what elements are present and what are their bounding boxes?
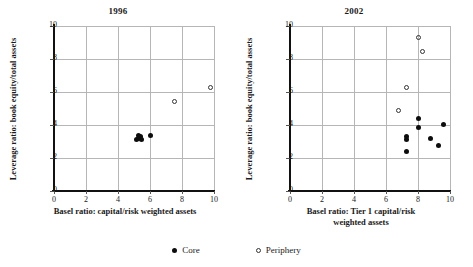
y-tick-label: 4	[45, 119, 57, 128]
x-tick	[182, 191, 183, 194]
x-axis-label-2002: Basel ratio: Tier 1 capital/riskweighted…	[256, 206, 466, 228]
x-tick-label: 2	[312, 195, 332, 204]
y-tick-label: 0	[45, 185, 57, 194]
x-tick-label: 10	[204, 195, 224, 204]
gridline-vertical	[322, 26, 323, 191]
gridline-vertical	[450, 26, 451, 191]
x-tick	[322, 191, 323, 194]
x-tick-label: 10	[440, 195, 460, 204]
filled-circle-icon	[172, 248, 177, 253]
gridline-horizontal	[290, 158, 450, 159]
x-tick-label: 8	[408, 195, 428, 204]
x-tick-label: 0	[280, 195, 300, 204]
plot-background	[290, 26, 450, 191]
gridline-vertical	[418, 26, 419, 191]
y-tick-label: 6	[45, 86, 57, 95]
x-axis-label-1996: Basel ratio: capital/risk weighted asset…	[20, 206, 230, 217]
gridline-horizontal	[54, 26, 214, 27]
plot-background	[54, 26, 214, 191]
gridline-horizontal	[290, 26, 450, 27]
y-tick-label: 2	[45, 152, 57, 161]
x-axis-spine	[288, 190, 451, 192]
y-axis-spine	[53, 24, 55, 192]
y-tick-label: 0	[281, 185, 293, 194]
y-tick-label: 8	[45, 53, 57, 62]
gridline-vertical	[354, 26, 355, 191]
y-tick-label: 2	[281, 152, 293, 161]
plot-area-2002: 02468100246810	[290, 26, 450, 191]
y-tick-label: 10	[281, 20, 293, 29]
y-axis-label-2002: Leverage ratio: book equity/total assets	[242, 26, 256, 191]
scatter-figure: 1996 Leverage ratio: book equity/total a…	[0, 0, 473, 267]
data-point-core	[404, 137, 409, 142]
x-tick	[118, 191, 119, 194]
x-tick	[450, 191, 451, 194]
gridline-horizontal	[54, 158, 214, 159]
gridline-horizontal	[54, 125, 214, 126]
x-tick-label: 0	[44, 195, 64, 204]
plot-area-1996: 02468100246810	[54, 26, 214, 191]
x-tick-label: 4	[108, 195, 128, 204]
data-point-periphery	[208, 85, 213, 90]
x-tick	[386, 191, 387, 194]
x-tick	[86, 191, 87, 194]
y-axis-spine	[289, 24, 291, 192]
gridline-horizontal	[54, 59, 214, 60]
gridline-vertical	[150, 26, 151, 191]
gridline-vertical	[386, 26, 387, 191]
legend-label-core: Core	[182, 245, 200, 255]
gridline-vertical	[118, 26, 119, 191]
panel-1996: 1996 Leverage ratio: book equity/total a…	[0, 0, 236, 240]
gridline-vertical	[182, 26, 183, 191]
y-tick-label: 8	[281, 53, 293, 62]
panel-title-2002: 2002	[236, 6, 472, 16]
gridline-vertical	[86, 26, 87, 191]
x-tick-label: 8	[172, 195, 192, 204]
data-point-core	[428, 136, 433, 141]
legend-label-periphery: Periphery	[266, 245, 301, 255]
y-axis-label-1996: Leverage ratio: book equity/total assets	[6, 26, 20, 191]
gridline-horizontal	[290, 125, 450, 126]
data-point-core	[441, 122, 446, 127]
data-point-core	[148, 133, 153, 138]
data-point-periphery	[404, 85, 409, 90]
x-axis-spine	[52, 190, 215, 192]
x-tick-label: 4	[344, 195, 364, 204]
gridline-horizontal	[54, 92, 214, 93]
data-point-periphery	[416, 35, 421, 40]
legend: Core Periphery	[0, 245, 473, 255]
legend-item-periphery: Periphery	[256, 245, 301, 255]
x-tick-label: 6	[376, 195, 396, 204]
panel-2002: 2002 Leverage ratio: book equity/total a…	[236, 0, 472, 240]
open-circle-icon	[256, 248, 261, 253]
x-tick	[214, 191, 215, 194]
x-tick	[150, 191, 151, 194]
x-tick-label: 6	[140, 195, 160, 204]
gridline-horizontal	[290, 59, 450, 60]
legend-item-core: Core	[172, 245, 200, 255]
x-tick	[418, 191, 419, 194]
gridline-horizontal	[290, 92, 450, 93]
panel-title-1996: 1996	[0, 6, 236, 16]
x-tick	[354, 191, 355, 194]
y-tick-label: 4	[281, 119, 293, 128]
y-tick-label: 6	[281, 86, 293, 95]
y-tick-label: 10	[45, 20, 57, 29]
x-tick-label: 2	[76, 195, 96, 204]
gridline-vertical	[214, 26, 215, 191]
